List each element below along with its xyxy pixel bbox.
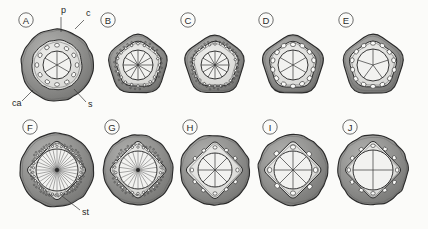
vascular-bundle [115, 171, 118, 174]
vascular-bundle [371, 41, 376, 45]
vascular-bundle [208, 43, 211, 46]
vascular-bundle [190, 168, 193, 172]
vascular-bundle [159, 171, 162, 174]
vascular-bundle [234, 58, 237, 61]
svg-text:B: B [105, 15, 111, 26]
medullary-rays [198, 153, 232, 187]
vascular-bundle [267, 167, 271, 172]
svg-text:G: G [108, 122, 115, 133]
vascular-bundle [213, 192, 217, 195]
annotation-label-st: st [82, 207, 90, 217]
anatomy-figure-svg: ABCDEFGHIJ pccasst [0, 0, 428, 229]
svg-text:H: H [187, 122, 194, 133]
annotation-label-ca: ca [12, 98, 22, 108]
vascular-bundle [131, 146, 134, 149]
vascular-bundle [51, 193, 54, 196]
vascular-bundle [51, 145, 54, 148]
vascular-bundle [313, 167, 317, 172]
vascular-bundle [193, 69, 196, 72]
vascular-bundle [47, 146, 50, 149]
vascular-bundle [208, 84, 211, 87]
vascular-bundle [214, 43, 216, 45]
vascular-bundle [137, 146, 139, 148]
vascular-bundle [64, 146, 67, 149]
vascular-bundle [113, 166, 116, 169]
vascular-bundle [55, 83, 60, 87]
vascular-bundle [137, 42, 140, 45]
vascular-bundle [142, 146, 145, 149]
vascular-bundle [47, 192, 50, 195]
vascular-bundle [371, 192, 375, 196]
vascular-bundle [236, 64, 238, 66]
vascular-bundle [192, 64, 194, 66]
vascular-bundle [32, 162, 35, 165]
vascular-bundle [142, 191, 145, 194]
vascular-bundle [214, 85, 216, 87]
annotation-label-p: p [61, 5, 66, 15]
vascular-bundle [236, 168, 239, 172]
vascular-bundle [371, 144, 375, 148]
vascular-bundle [60, 192, 63, 195]
vascular-bundle [290, 145, 295, 149]
vascular-bundle [33, 175, 36, 178]
vascular-bundle [131, 191, 134, 194]
svg-text:D: D [263, 15, 270, 26]
svg-text:A: A [23, 15, 30, 26]
svg-text:J: J [348, 122, 353, 133]
vascular-bundle [290, 191, 295, 195]
vascular-bundle [290, 42, 295, 46]
annotation-label-c: c [86, 8, 91, 18]
vascular-bundle [137, 192, 139, 194]
vascular-bundle [116, 64, 119, 67]
vascular-bundle [64, 192, 67, 195]
svg-text:I: I [269, 122, 272, 133]
svg-text:F: F [27, 122, 33, 133]
annotation-label-s: s [88, 99, 93, 109]
vascular-bundle [32, 167, 34, 169]
vascular-bundle [234, 69, 237, 72]
vascular-bundle [78, 175, 81, 178]
vascular-bundle [213, 146, 217, 149]
vascular-bundle [80, 167, 82, 169]
vascular-bundle [60, 145, 63, 148]
vascular-bundle [75, 63, 79, 68]
vascular-bundle [158, 64, 161, 67]
svg-text:E: E [343, 15, 349, 26]
svg-text:C: C [185, 15, 192, 26]
vascular-bundle [219, 84, 222, 87]
pith-center [136, 168, 140, 172]
vascular-bundle [395, 168, 399, 172]
vascular-bundle [32, 171, 34, 173]
medullary-rays [274, 151, 312, 189]
vascular-bundle [137, 85, 140, 88]
vascular-bundle [347, 168, 351, 172]
vascular-bundle [55, 43, 60, 47]
vascular-bundle [56, 193, 58, 195]
vascular-bundle [290, 84, 295, 88]
vascular-bundle [56, 145, 58, 147]
vascular-bundle [371, 84, 376, 88]
vascular-bundle [160, 166, 163, 169]
vascular-bundle [219, 43, 222, 46]
vascular-bundle [192, 58, 195, 61]
pith-center [55, 168, 59, 172]
vascular-bundle [80, 171, 82, 173]
vascular-bundle [35, 63, 39, 68]
figure-plate: ABCDEFGHIJ pccasst [0, 0, 428, 229]
vascular-bundle [79, 162, 82, 165]
